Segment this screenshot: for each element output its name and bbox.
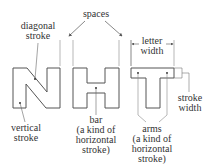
bar-label-4: stroke) <box>82 144 110 156</box>
spaces-arrow-right <box>105 21 122 36</box>
vertical-stroke-label-2: stroke <box>14 132 39 143</box>
diagonal-stroke-dot <box>34 78 36 80</box>
diagonal-stroke-label-2: stroke <box>26 30 51 41</box>
diagonal-stroke-leader <box>35 43 38 79</box>
stroke-width-label-2: width <box>179 102 202 113</box>
vertical-stroke-leader <box>20 103 25 122</box>
stroke-width-bracket <box>174 68 189 92</box>
letter-width-label-2: width <box>141 45 164 56</box>
arms-leader <box>138 73 167 122</box>
space-guides <box>60 40 131 66</box>
letter-n-outline <box>13 68 60 108</box>
letter-t-outline <box>131 68 174 108</box>
arms-label-4: stroke) <box>138 153 166 164</box>
letter-anatomy-diagram: spaces diagonal stroke vertical stroke b… <box>0 0 216 164</box>
spaces-arrow-left <box>69 21 85 36</box>
spaces-label: spaces <box>83 8 109 19</box>
